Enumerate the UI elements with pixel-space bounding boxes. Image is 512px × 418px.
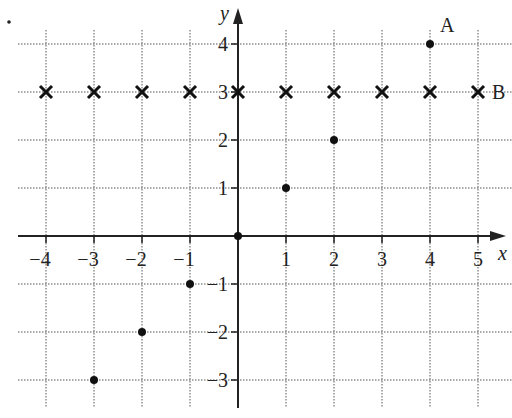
y-axis-arrow-icon (233, 8, 243, 24)
y-tick-label: −2 (207, 321, 228, 343)
stray-dot (7, 20, 11, 24)
y-tick-label: −1 (207, 273, 228, 295)
x-axis-label: x (497, 242, 507, 264)
x-axis-arrow-icon (490, 231, 506, 241)
coordinate-plane-chart: −4−3−2−112345−3−2−11234xyAB (0, 0, 512, 418)
x-tick-label: −4 (29, 248, 50, 270)
data-point-dot (330, 136, 338, 144)
y-tick-label: 1 (218, 177, 228, 199)
y-tick-label: 4 (218, 33, 228, 55)
data-point-dot (186, 280, 194, 288)
data-point-dot (138, 328, 146, 336)
y-tick-label: 3 (218, 81, 228, 103)
data-point-dot (234, 232, 242, 240)
point-label-a: A (440, 14, 455, 36)
data-point-dot (282, 184, 290, 192)
grid-lines (18, 30, 512, 408)
x-tick-label: −2 (125, 248, 146, 270)
point-label-b: B (492, 81, 505, 103)
x-tick-label: 4 (425, 248, 435, 270)
x-tick-label: 2 (329, 248, 339, 270)
x-tick-label: 3 (377, 248, 387, 270)
x-tick-label: 5 (473, 248, 483, 270)
data-point-dot (426, 40, 434, 48)
y-tick-label: −3 (207, 369, 228, 391)
x-tick-label: −3 (77, 248, 98, 270)
x-tick-label: 1 (281, 248, 291, 270)
data-point-dot (90, 376, 98, 384)
y-tick-label: 2 (218, 129, 228, 151)
y-axis-label: y (218, 2, 229, 25)
x-tick-label: −1 (173, 248, 194, 270)
